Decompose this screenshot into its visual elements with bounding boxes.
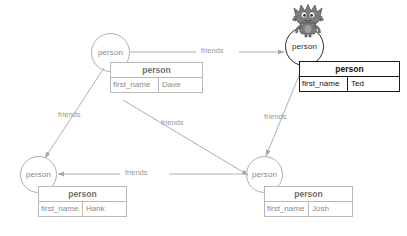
node-table-ted[interactable]: person first_name Ted xyxy=(299,61,400,92)
node-table-row-josh: first_name Josh xyxy=(265,202,352,216)
node-table-row-dave: first_name Dave xyxy=(111,78,202,92)
graph-canvas: friends friends friends friends friends … xyxy=(0,0,407,236)
node-table-title-hank: person xyxy=(39,187,126,202)
node-table-dave[interactable]: person first_name Dave xyxy=(110,62,203,93)
property-key-hank: first_name xyxy=(39,202,83,216)
property-value-josh: Josh xyxy=(309,202,352,216)
edge-ted-josh[interactable] xyxy=(266,66,303,156)
property-value-hank: Hank xyxy=(83,202,126,216)
property-key-josh: first_name xyxy=(265,202,309,216)
node-table-hank[interactable]: person first_name Hank xyxy=(38,186,127,217)
node-table-title-josh: person xyxy=(265,187,352,202)
node-table-josh[interactable]: person first_name Josh xyxy=(264,186,353,217)
edge-label-ted-josh: friends xyxy=(263,112,288,121)
edge-dave-josh[interactable] xyxy=(123,100,248,175)
property-value-ted: Ted xyxy=(348,77,399,91)
property-value-dave: Dave xyxy=(159,78,202,92)
edge-label-josh-hank: friends xyxy=(124,168,149,177)
node-table-row-hank: first_name Hank xyxy=(39,202,126,216)
node-circle-label-hank: person xyxy=(26,170,51,179)
node-circle-label-ted: person xyxy=(292,42,317,51)
creature-mascot-icon xyxy=(292,4,324,38)
node-table-title-dave: person xyxy=(111,63,202,78)
edge-label-dave-ted: friends xyxy=(200,46,225,55)
property-key-dave: first_name xyxy=(111,78,159,92)
node-table-row-ted: first_name Ted xyxy=(300,77,399,91)
node-table-title-ted: person xyxy=(300,62,399,77)
edge-label-dave-josh: friends xyxy=(160,118,185,127)
node-circle-label-josh: person xyxy=(252,170,277,179)
property-key-ted: first_name xyxy=(300,77,348,91)
edge-label-dave-hank: friends xyxy=(57,110,82,119)
node-circle-label-dave: person xyxy=(98,48,123,57)
